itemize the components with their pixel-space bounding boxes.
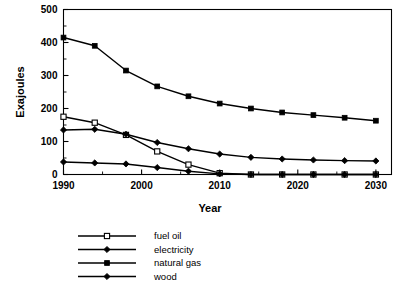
chart-figure: 0100200300400500 19902000201020202030 Ex…: [0, 0, 397, 294]
y-tick-label: 400: [41, 37, 58, 48]
data-point: [92, 43, 97, 48]
data-point: [155, 149, 160, 154]
data-point: [186, 162, 191, 167]
data-point: [61, 35, 66, 40]
y-tick-label: 500: [41, 4, 58, 15]
y-tick-label: 0: [52, 169, 58, 180]
legend-marker: [105, 261, 110, 266]
data-point: [92, 120, 97, 125]
x-axis-title: Year: [198, 202, 222, 214]
data-point: [373, 118, 378, 123]
data-point: [61, 114, 66, 119]
legend-label: wood: [153, 271, 177, 282]
legend-label: fuel oil: [154, 230, 181, 241]
y-tick-label: 200: [41, 103, 58, 114]
x-tick-label: 2000: [130, 180, 153, 191]
data-point: [155, 84, 160, 89]
y-axis-title: Exajoules: [14, 66, 26, 117]
data-point: [311, 113, 316, 118]
data-point: [186, 94, 191, 99]
x-tick-label: 1990: [52, 180, 75, 191]
x-tick-label: 2030: [365, 180, 388, 191]
y-tick-label: 300: [41, 70, 58, 81]
data-point: [249, 106, 254, 111]
legend-marker: [104, 233, 109, 238]
chart-background: [0, 0, 397, 294]
x-tick-label: 2020: [287, 180, 310, 191]
y-tick-label: 100: [41, 136, 58, 147]
data-point: [124, 68, 129, 73]
line-chart-svg: 0100200300400500 19902000201020202030 Ex…: [0, 0, 397, 294]
x-tick-label: 2010: [209, 180, 232, 191]
legend-label: natural gas: [154, 257, 201, 268]
data-point: [342, 115, 347, 120]
data-point: [217, 101, 222, 106]
data-point: [280, 110, 285, 115]
legend-label: electricity: [154, 244, 194, 255]
